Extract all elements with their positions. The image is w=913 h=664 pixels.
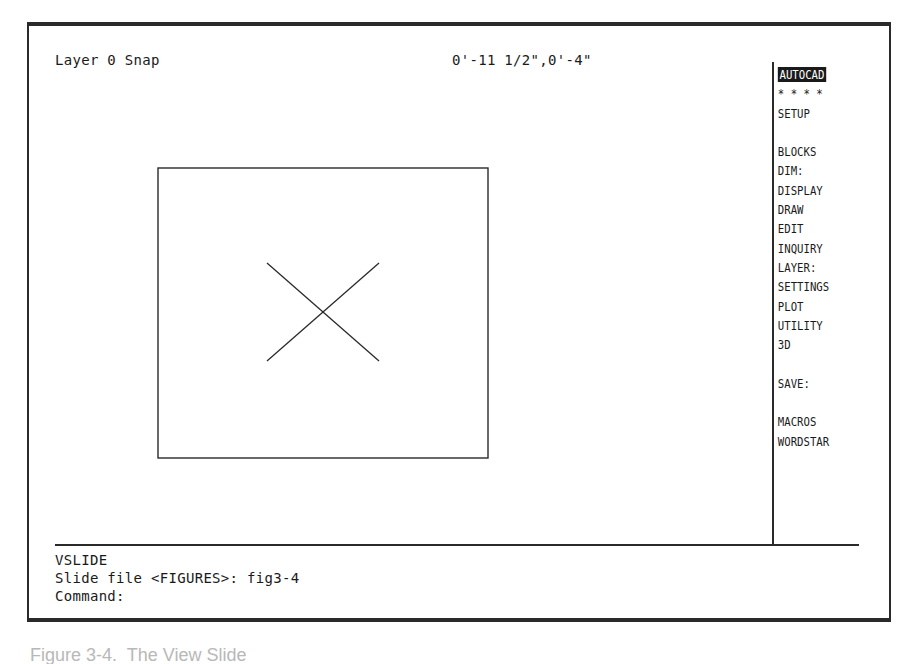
menu-item-settings[interactable]: SETTINGS [777,277,855,296]
menu-item-label: MACROS [778,414,817,429]
status-coordinates: 0'-11 1/2",0'-4" [452,52,592,68]
menu-item-label: DIM: [778,163,804,178]
menu-item-label: SETUP [778,106,810,121]
command-area-divider [55,544,859,546]
menu-item-draw[interactable]: DRAW [777,200,855,219]
menu-item-edit[interactable]: EDIT [777,219,855,238]
menu-item-label: * * * * [778,86,823,101]
command-prompt-area[interactable]: VSLIDE Slide file <FIGURES>: fig3-4 Comm… [55,551,299,605]
menu-item-display[interactable]: DISPLAY [777,181,855,200]
menu-item-layer[interactable]: LAYER: [777,258,855,277]
menu-item-label: SAVE: [778,376,810,391]
menu-item-plot[interactable]: PLOT [777,297,855,316]
drawing-canvas[interactable] [157,167,489,459]
command-history-line: VSLIDE [55,551,299,569]
status-layer-snap: Layer 0 Snap [55,52,160,68]
menu-item-3d[interactable]: 3D [777,335,855,354]
menu-item-separator-stars[interactable]: * * * * [777,84,855,103]
menu-item-label: BLOCKS [778,144,817,159]
command-prompt[interactable]: Command: [55,587,299,605]
menu-item-label: LAYER: [778,260,817,275]
menu-item-autocad[interactable]: AUTOCAD [777,65,855,84]
menu-item-utility[interactable]: UTILITY [777,316,855,335]
menu-item-label: INQUIRY [778,241,823,256]
command-history-line: Slide file <FIGURES>: fig3-4 [55,569,299,587]
figure-caption: Figure 3-4. The View Slide [30,645,246,664]
menu-item-label: WORDSTAR [778,434,829,449]
menu-item-dim[interactable]: DIM: [777,161,855,180]
menu-item-inquiry[interactable]: INQUIRY [777,239,855,258]
menu-gap [777,123,855,142]
menu-item-save[interactable]: SAVE: [777,374,855,393]
menu-item-label: DRAW [778,202,804,217]
menu-gap [777,393,855,412]
menu-item-label: SETTINGS [778,279,829,294]
slide-rectangle [158,168,488,458]
menu-item-label: AUTOCAD [778,67,826,82]
menu-item-label: UTILITY [778,318,823,333]
menu-item-macros[interactable]: MACROS [777,412,855,431]
menu-item-label: PLOT [778,299,804,314]
menu-item-blocks[interactable]: BLOCKS [777,142,855,161]
menu-item-label: EDIT [778,221,804,236]
screen-menu: AUTOCAD * * * * SETUP BLOCKS DIM: DISPLA… [777,65,855,451]
menu-item-wordstar[interactable]: WORDSTAR [777,432,855,451]
menu-item-label: 3D [778,337,791,352]
menu-item-setup[interactable]: SETUP [777,104,855,123]
menu-gap [777,354,855,373]
screen-menu-divider [772,62,774,546]
menu-item-label: DISPLAY [778,183,823,198]
autocad-screen: Layer 0 Snap 0'-11 1/2",0'-4" AUTOCAD * … [27,22,891,622]
